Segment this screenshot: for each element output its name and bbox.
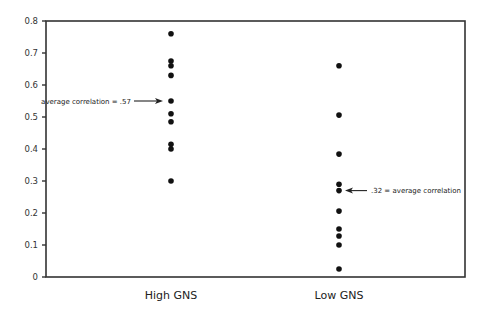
data-point <box>168 119 174 125</box>
data-point <box>336 181 342 187</box>
data-point <box>336 151 342 157</box>
data-point <box>168 146 174 152</box>
data-point <box>168 178 174 184</box>
plot-frame <box>46 21 465 277</box>
data-point <box>336 266 342 272</box>
y-tick-label: 0 <box>33 272 38 282</box>
data-point <box>336 242 342 248</box>
data-point <box>168 141 174 147</box>
data-point <box>336 63 342 69</box>
x-category-label: Low GNS <box>315 289 364 302</box>
annotation-label: .32 = average correlation <box>371 187 461 195</box>
y-axis-ticks: 00.10.20.30.40.50.60.70.8 <box>24 16 46 282</box>
y-tick-label: 0.4 <box>24 144 38 154</box>
data-point <box>336 188 342 194</box>
annotation-label: average correlation = .57 <box>41 98 131 106</box>
data-point <box>168 58 174 64</box>
data-point <box>168 111 174 117</box>
data-point <box>168 73 174 79</box>
x-category-label: High GNS <box>145 289 198 302</box>
data-point <box>168 63 174 69</box>
y-tick-label: 0.6 <box>24 80 38 90</box>
data-point <box>168 98 174 104</box>
y-tick-label: 0.7 <box>24 48 38 58</box>
y-tick-label: 0.1 <box>24 240 38 250</box>
annotations: average correlation = .57.32 = average c… <box>41 98 461 196</box>
y-tick-label: 0.2 <box>24 208 38 218</box>
plot-border <box>46 21 465 277</box>
data-point <box>168 31 174 37</box>
y-tick-label: 0.3 <box>24 176 38 186</box>
y-tick-label: 0.8 <box>24 16 38 26</box>
data-points <box>168 31 342 272</box>
data-point <box>336 112 342 118</box>
data-point <box>336 233 342 239</box>
data-point <box>336 208 342 214</box>
scatter-chart: 00.10.20.30.40.50.60.70.8 average correl… <box>0 0 487 309</box>
x-axis-categories: High GNSLow GNS <box>145 289 364 302</box>
data-point <box>336 226 342 232</box>
y-tick-label: 0.5 <box>24 112 38 122</box>
